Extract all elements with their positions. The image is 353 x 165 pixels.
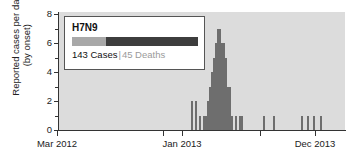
y-axis-tick-label: 8	[47, 9, 52, 19]
x-axis-tick	[182, 131, 183, 136]
y-axis-minor-tick	[55, 116, 58, 117]
y-axis-title-line1: Reported cases per day	[10, 0, 21, 96]
y-axis-line	[58, 12, 59, 131]
y-axis-tick	[54, 14, 58, 15]
y-axis-tick-label: 4	[47, 67, 52, 77]
y-axis-minor-tick	[55, 87, 58, 88]
bar	[231, 116, 233, 131]
legend-swatch-deaths-segment	[72, 37, 106, 46]
legend-stats: 143 Cases|45 Deaths	[72, 50, 197, 60]
x-axis-line	[58, 130, 346, 131]
bar	[320, 116, 322, 131]
y-axis-tick-label: 2	[47, 96, 52, 106]
y-axis-minor-tick	[55, 58, 58, 59]
legend-cases-count: 143 Cases	[72, 49, 117, 60]
legend: H7N9 143 Cases|45 Deaths	[64, 16, 205, 70]
y-axis-tick-label: 6	[47, 38, 52, 48]
y-axis-title: Reported cases per day (by onset)	[10, 0, 32, 113]
x-axis-tick	[57, 131, 58, 136]
bar	[191, 101, 193, 130]
x-axis-tick	[163, 131, 164, 136]
bar	[241, 116, 243, 131]
legend-deaths-count: 45 Deaths	[122, 49, 165, 60]
y-axis-tick-label: 0	[47, 125, 52, 135]
bar	[273, 116, 275, 131]
y-axis-tick	[54, 43, 58, 44]
y-axis-title-line2: (by onset)	[22, 24, 33, 66]
bar	[301, 116, 303, 131]
x-axis-tick-label: Dec 2013	[295, 139, 336, 149]
h7n9-epidemic-curve-figure: Reported cases per day (by onset) 02468 …	[0, 0, 353, 165]
x-axis-tick	[315, 131, 316, 136]
y-axis-minor-tick	[55, 29, 58, 30]
x-axis-tick-label: Mar 2012	[37, 139, 77, 149]
legend-swatch-cases-segment	[106, 37, 198, 46]
legend-swatch	[72, 37, 198, 46]
y-axis-tick	[54, 101, 58, 102]
bar	[307, 116, 309, 131]
bar	[195, 101, 197, 130]
x-axis-tick	[260, 131, 261, 136]
y-axis-tick	[54, 72, 58, 73]
legend-title: H7N9	[72, 22, 197, 33]
bar	[235, 116, 237, 131]
x-axis-tick-label: Jan 2013	[162, 139, 201, 149]
bar	[313, 116, 315, 131]
bar	[199, 116, 201, 131]
bar	[263, 116, 265, 131]
